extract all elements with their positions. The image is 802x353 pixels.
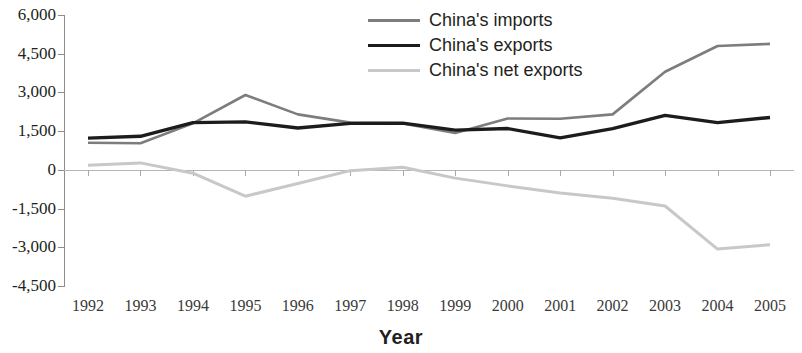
legend-item[interactable]: China's imports xyxy=(368,8,628,33)
series-line xyxy=(88,115,770,138)
x-axis-title: Year xyxy=(0,326,802,349)
series-line xyxy=(88,163,770,249)
legend-item[interactable]: China's net exports xyxy=(368,58,628,83)
legend-item-label: China's exports xyxy=(429,35,553,56)
legend-line-swatch xyxy=(368,19,420,22)
legend-item-label: China's imports xyxy=(429,10,552,31)
chart-legend: China's importsChina's exportsChina's ne… xyxy=(368,8,628,83)
legend-item-label: China's net exports xyxy=(429,60,583,81)
legend-line-swatch xyxy=(368,69,420,72)
legend-item[interactable]: China's exports xyxy=(368,33,628,58)
legend-line-swatch xyxy=(368,44,420,48)
chart-container: 6,0004,5003,0001,5000-1,500-3,000-4,500 … xyxy=(0,0,802,353)
